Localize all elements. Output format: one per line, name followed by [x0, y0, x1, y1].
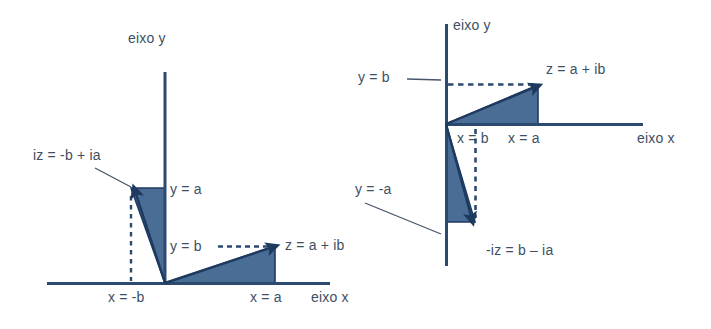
- left-vector-z-label: z = a + ib: [285, 238, 345, 253]
- figure-canvas: eixo y iz = -b + ia y = a y = b z = a + …: [0, 0, 711, 329]
- right-vector-z-label: z = a + ib: [546, 62, 606, 77]
- right-leader-y-minus-a: [365, 203, 441, 234]
- right-x-equals-b-label: x = b: [457, 131, 489, 146]
- right-x-equals-a-label: x = a: [508, 131, 540, 146]
- left-y-axis-label: eixo y: [128, 31, 166, 46]
- left-x-equals-minus-b-label: x = -b: [108, 290, 145, 305]
- left-y-equals-b-label: y = b: [170, 239, 202, 254]
- right-x-axis-label: eixo x: [637, 131, 675, 146]
- left-y-equals-a-label: y = a: [170, 182, 202, 197]
- right-y-equals-minus-a-label: y = -a: [355, 182, 392, 197]
- right-leader-y-b: [407, 79, 441, 80]
- right-y-axis-label: eixo y: [453, 18, 491, 33]
- left-x-equals-a-label: x = a: [250, 290, 282, 305]
- left-x-axis-label: eixo x: [311, 290, 349, 305]
- right-y-equals-b-label: y = b: [358, 70, 390, 85]
- left-vector-iz-label: iz = -b + ia: [33, 148, 101, 163]
- left-leader-iz: [95, 168, 131, 187]
- diagram-svg: [0, 0, 711, 329]
- right-vector-minus-iz-label: -iz = b – ia: [486, 243, 553, 258]
